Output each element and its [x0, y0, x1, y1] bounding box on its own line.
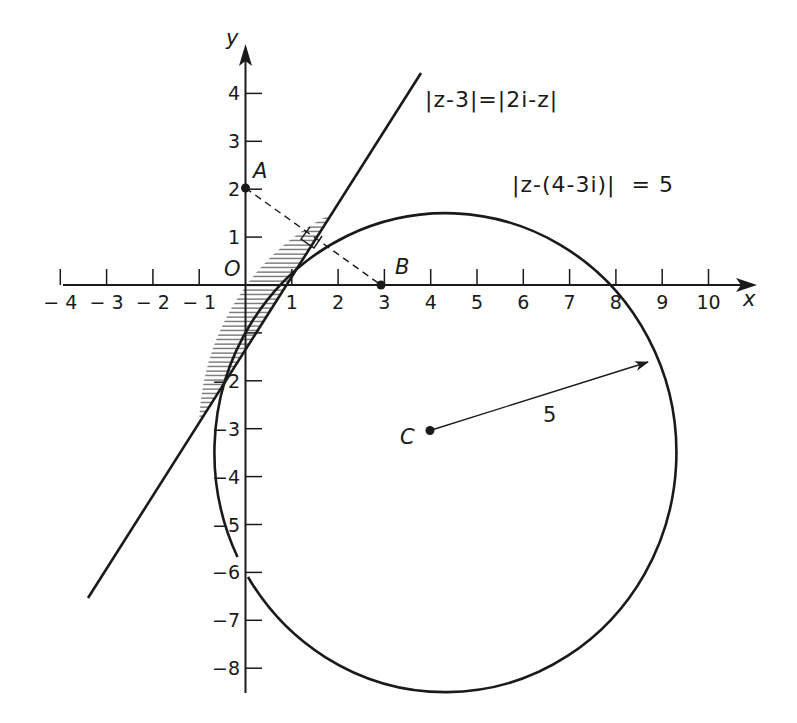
- x-tick-label: 5: [471, 291, 483, 313]
- x-tick-label: − 3: [90, 291, 124, 313]
- point-a-label: A: [251, 159, 267, 183]
- x-tick-label: 6: [517, 291, 529, 313]
- origin-label: O: [224, 257, 241, 281]
- x-tick-label: 4: [425, 291, 437, 313]
- y-tick-label: 3: [228, 130, 240, 152]
- radius-arrow: [430, 362, 648, 431]
- point-b-label: B: [395, 255, 409, 279]
- y-tick-label: −8: [212, 657, 240, 679]
- complex-plane-diagram: − 4− 3− 2− 112345678910 x 4321−2−3−4−5−6…: [0, 0, 797, 723]
- x-tick-label: − 4: [43, 291, 77, 313]
- x-tick-label: 9: [656, 291, 668, 313]
- y-tick-label: −6: [212, 561, 240, 583]
- point-c: [426, 426, 435, 435]
- point-c-label: C: [400, 425, 415, 449]
- x-tick-label: − 1: [182, 291, 216, 313]
- y-axis-label: y: [225, 26, 239, 50]
- y-tick-label: 4: [228, 82, 240, 104]
- x-tick-label: 2: [332, 291, 344, 313]
- x-tick-label: 10: [696, 291, 720, 313]
- line-equation-label: |z-3|=|2i-z|: [425, 87, 558, 113]
- point-a: [241, 184, 250, 193]
- x-axis-label: x: [742, 287, 756, 311]
- x-tick-label: − 2: [136, 291, 170, 313]
- radius-label: 5: [543, 403, 556, 427]
- circle-equation-label: |z-(4-3i)| = 5: [512, 172, 674, 198]
- x-tick-label: 3: [378, 291, 390, 313]
- y-tick-label: 2: [228, 178, 240, 200]
- y-tick-label: 1: [228, 226, 240, 248]
- x-tick-label: 1: [286, 291, 298, 313]
- bisector-line: [88, 73, 421, 598]
- y-tick-label: −7: [212, 609, 240, 631]
- shaded-region: [0, 73, 421, 598]
- point-b: [377, 281, 386, 290]
- x-tick-label: 7: [564, 291, 576, 313]
